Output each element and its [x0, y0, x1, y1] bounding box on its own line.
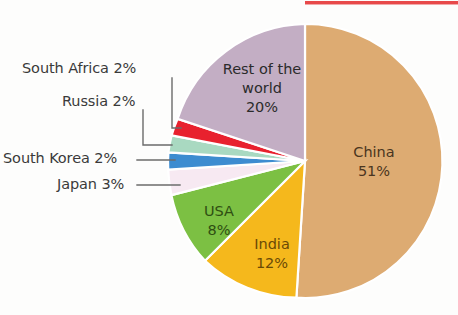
callout-label-south-africa: South Africa 2% — [22, 60, 136, 76]
callout-label-russia: Russia 2% — [62, 93, 135, 109]
callout-label-japan: Japan 3% — [57, 176, 124, 192]
leader-line-south-africa — [172, 78, 181, 128]
chart-canvas: China 51% India 12% USA 8% Rest of the w… — [0, 0, 458, 315]
leader-line-russia — [143, 110, 172, 145]
callout-label-south-korea: South Korea 2% — [3, 150, 117, 166]
